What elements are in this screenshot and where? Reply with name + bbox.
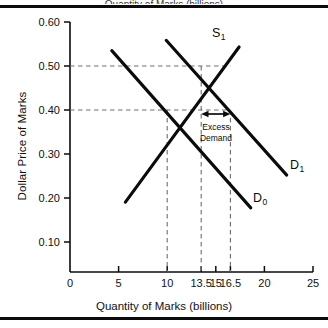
x-tick-label-20: 20 <box>252 277 276 289</box>
excess-demand-annotation: Excess Demand <box>192 122 240 143</box>
x-tick-label-16-5: 16.5 <box>215 277 245 289</box>
curve-label-d1-text: D <box>290 158 299 172</box>
excess-demand-line2: Demand <box>192 133 240 144</box>
y-tick-label-010: 0.10 <box>22 236 60 248</box>
y-axis-title: Dollar Price of Marks <box>16 66 28 226</box>
curve-label-s1-sub: 1 <box>221 32 226 42</box>
curve-label-d1: D1 <box>290 158 304 172</box>
x-tick-marks <box>119 266 313 272</box>
y-tick-marks <box>64 22 70 242</box>
x-tick-label-5: 5 <box>108 277 130 289</box>
excess-demand-arrow <box>201 111 230 118</box>
chart-figure: Quantity of Marks (billions) <box>0 0 328 328</box>
curve-label-d0-text: D <box>253 191 262 205</box>
x-tick-label-0: 0 <box>59 277 81 289</box>
y-tick-label-060: 0.60 <box>22 16 60 28</box>
curve-label-s1-text: S <box>212 26 220 40</box>
curve-label-d0-sub: 0 <box>263 197 268 207</box>
curve-label-d1-sub: 1 <box>300 164 305 174</box>
excess-demand-line1: Excess <box>192 122 240 133</box>
curve-label-d0: D0 <box>253 191 267 205</box>
curve-label-s1: S1 <box>212 26 225 40</box>
x-tick-label-10: 10 <box>155 277 179 289</box>
x-tick-label-25: 25 <box>301 277 325 289</box>
curve-demand-d1 <box>166 40 287 175</box>
x-axis-title: Quantity of Marks (billions) <box>0 300 328 312</box>
axes <box>70 22 313 272</box>
